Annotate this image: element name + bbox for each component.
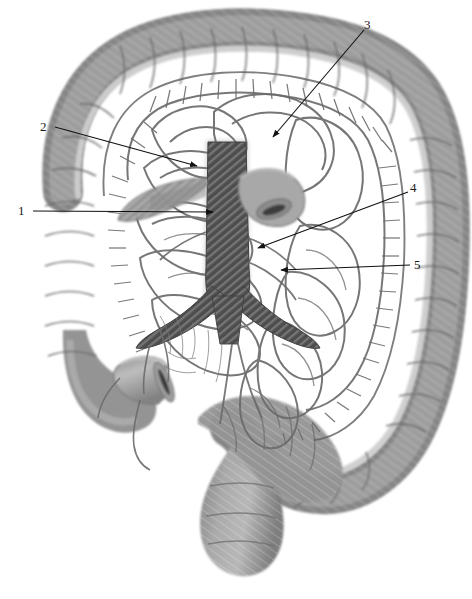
callout-label-4: 4 <box>410 181 417 194</box>
callout-label-2: 2 <box>40 120 47 133</box>
callout-label-3: 3 <box>364 18 371 31</box>
callout-label-1: 1 <box>18 204 25 217</box>
anatomy-figure: 12345 <box>0 0 472 599</box>
aorta-trunk <box>206 142 250 302</box>
callout-label-5: 5 <box>414 258 421 271</box>
colon-anatomy-illustration <box>0 0 472 599</box>
